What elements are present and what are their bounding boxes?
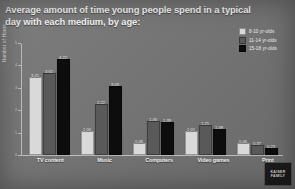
bar-group: 0.460.370.23 [231, 44, 283, 155]
bar [57, 59, 70, 155]
y-axis-tick-label: 3 [15, 86, 17, 90]
x-axis-category-label: TV content [23, 157, 77, 163]
y-axis-tick: 0 [18, 155, 21, 156]
bar [251, 145, 264, 155]
bar-column: 3.61 [43, 44, 56, 155]
y-axis-label: Number of Hours [2, 24, 7, 62]
y-axis-line [21, 44, 22, 156]
y-axis-tick-label: 5 [15, 41, 17, 45]
bar-column: 1.25 [199, 44, 212, 155]
legend-item: 8-10 yr-olds [239, 28, 277, 35]
x-axis-category-label: Computers [132, 157, 186, 163]
bar-group: 1.011.251.08 [179, 44, 231, 155]
y-axis-tick: 4 [18, 65, 21, 66]
bar [161, 122, 174, 155]
logo-line-2: FAMILY [271, 174, 285, 178]
y-axis-tick: 3 [18, 88, 21, 89]
y-axis-tick: 1 [18, 133, 21, 134]
bar-value-label: 1.39 [163, 118, 171, 123]
bar-value-label: 0.23 [267, 144, 275, 149]
legend-item-label: 8-10 yr-olds [249, 29, 274, 34]
x-axis-category-label: Video games [186, 157, 240, 163]
bar-column: 4.22 [57, 44, 70, 155]
y-axis-tick-label: 1 [15, 131, 17, 135]
bar-value-label: 3.61 [45, 69, 53, 74]
bar-value-label: 1.00 [83, 127, 91, 132]
bar [237, 143, 250, 155]
bar-column: 0.23 [265, 44, 278, 155]
y-axis-tick: 5 [18, 43, 21, 44]
bar-column: 1.01 [185, 44, 198, 155]
bar-column: 3.03 [109, 44, 122, 155]
bar [199, 125, 212, 155]
bar-value-label: 1.08 [215, 125, 223, 130]
bar-column: 1.00 [81, 44, 94, 155]
x-axis-category-label: Music [77, 157, 131, 163]
bar [185, 131, 198, 155]
legend-item: 11-14 yr-olds [239, 37, 277, 44]
bar-column: 0.46 [133, 44, 146, 155]
bar [95, 104, 108, 155]
legend-swatch-icon [239, 37, 246, 44]
bar-groups: 3.413.614.221.002.223.030.461.461.391.01… [23, 44, 283, 155]
bar-group: 3.413.614.22 [23, 44, 75, 155]
bar [109, 86, 122, 155]
bar [265, 148, 278, 155]
bar-value-label: 0.46 [135, 139, 143, 144]
bar [43, 73, 56, 155]
bar-value-label: 0.46 [239, 139, 247, 144]
legend-item-label: 11-14 yr-olds [249, 38, 277, 43]
bar-column: 0.46 [237, 44, 250, 155]
y-axis-tick: 2 [18, 110, 21, 111]
bar-value-label: 4.22 [59, 55, 67, 60]
bar-column: 0.37 [251, 44, 264, 155]
bar [133, 143, 146, 155]
y-axis-tick-label: 2 [15, 108, 17, 112]
y-axis-tick-label: 4 [15, 63, 17, 67]
y-axis-tick-label: 0 [15, 153, 17, 157]
logo-line-1: KAISER [270, 170, 285, 174]
bar-column: 2.22 [95, 44, 108, 155]
bar [147, 121, 160, 155]
chart-title: Average amount of time young people spen… [5, 4, 263, 27]
kaiser-family-foundation-logo: KAISER FAMILY [264, 162, 292, 186]
x-axis-category-labels: TV contentMusicComputersVideo gamesPrint [23, 157, 295, 163]
plot-area: 012345 3.413.614.221.002.223.030.461.461… [21, 44, 283, 156]
bar-column: 1.46 [147, 44, 160, 155]
bar-value-label: 2.22 [97, 100, 105, 105]
bar-group: 1.002.223.03 [75, 44, 127, 155]
bar-group: 0.461.461.39 [127, 44, 179, 155]
bar-value-label: 3.03 [111, 82, 119, 87]
bar-column: 1.08 [213, 44, 226, 155]
bar-value-label: 1.01 [187, 127, 195, 132]
bar-value-label: 1.25 [201, 121, 209, 126]
bar-column: 3.41 [29, 44, 42, 155]
bar [29, 77, 42, 155]
bar [213, 129, 226, 155]
bar [81, 131, 94, 155]
bar-value-label: 0.37 [253, 141, 261, 146]
x-axis-line [21, 155, 283, 156]
bar-value-label: 1.46 [149, 117, 157, 122]
bar-value-label: 3.41 [31, 73, 39, 78]
legend-swatch-icon [239, 28, 246, 35]
bar-column: 1.39 [161, 44, 174, 155]
